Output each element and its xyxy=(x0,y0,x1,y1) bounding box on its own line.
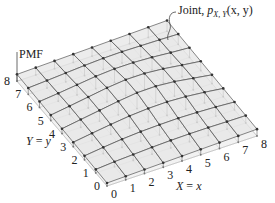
base-point xyxy=(144,173,146,175)
surface-point xyxy=(244,114,247,117)
base-point xyxy=(84,159,86,161)
base-point xyxy=(125,179,127,181)
x-tick-4: 4 xyxy=(186,163,192,175)
surface-point xyxy=(214,106,217,109)
annotation-args: (x, y) xyxy=(227,3,253,17)
surface-point xyxy=(72,141,75,144)
y-tick-4: 4 xyxy=(49,128,55,140)
annotation-prefix: Joint, xyxy=(178,3,207,17)
base-point xyxy=(95,172,97,174)
surface-point xyxy=(121,50,124,53)
surface-point xyxy=(166,101,169,104)
x-tick-5: 5 xyxy=(205,157,211,169)
surface-point xyxy=(199,60,202,63)
surface-point xyxy=(196,111,199,114)
surface-point xyxy=(128,115,131,118)
surface-point xyxy=(72,53,75,56)
surface-point xyxy=(57,92,60,95)
surface-point xyxy=(188,133,191,136)
surface-point xyxy=(184,95,187,98)
base-point xyxy=(39,107,41,109)
surface-point xyxy=(143,168,146,171)
surface-point xyxy=(169,51,172,54)
z-axis-label: PMF xyxy=(19,48,43,60)
surface-point xyxy=(102,146,105,149)
y-tick-7: 7 xyxy=(15,88,21,100)
surface-point xyxy=(158,39,161,42)
base-point xyxy=(256,135,258,137)
surface-point xyxy=(222,87,225,90)
surface-point xyxy=(49,114,52,117)
surface-point xyxy=(226,120,229,123)
surface-point xyxy=(192,77,195,80)
surface-point xyxy=(256,128,259,131)
surface-point xyxy=(181,155,184,158)
y-tick-1: 1 xyxy=(83,167,89,179)
surface-point xyxy=(124,78,127,81)
surface-point xyxy=(139,130,142,133)
surface-point xyxy=(147,26,150,29)
surface-point xyxy=(27,87,30,90)
surface-point xyxy=(68,105,71,108)
surface-point xyxy=(91,46,94,49)
surface-point xyxy=(53,60,56,63)
surface-point xyxy=(143,72,146,75)
surface-point xyxy=(199,148,202,151)
base-point xyxy=(181,160,183,162)
surface-point xyxy=(128,33,131,36)
surface-point xyxy=(124,175,127,178)
surface-point xyxy=(158,123,161,126)
surface-point xyxy=(181,64,184,67)
base-point xyxy=(50,120,52,122)
surface-point xyxy=(203,91,206,94)
surface-point xyxy=(121,138,124,141)
surface-point xyxy=(34,66,37,69)
surface-point xyxy=(136,92,139,95)
surface-point xyxy=(207,126,210,129)
surface-point xyxy=(61,127,64,130)
surface-point xyxy=(46,79,49,82)
annotation-subscript: X, Y xyxy=(213,10,226,19)
joint-pmf-plot xyxy=(0,0,275,203)
y-tick-3: 3 xyxy=(60,141,66,153)
surface-point xyxy=(162,68,165,71)
y-eq: = xyxy=(33,134,46,148)
base-point xyxy=(237,141,239,143)
surface-point xyxy=(94,168,97,171)
joint-pmf-annotation: Joint, pX, Y(x, y) xyxy=(178,4,253,19)
surface-point xyxy=(169,139,172,142)
surface-point xyxy=(139,45,142,48)
x-tick-3: 3 xyxy=(167,169,173,181)
surface-point xyxy=(162,162,165,165)
base-point xyxy=(106,185,108,187)
surface-point xyxy=(188,46,191,49)
base-point xyxy=(27,93,29,95)
surface-point xyxy=(76,84,79,87)
surface-point xyxy=(211,74,214,77)
x-tick-0: 0 xyxy=(111,188,117,200)
y-tick-5: 5 xyxy=(38,115,44,127)
x-tick-8: 8 xyxy=(261,138,267,150)
base-point xyxy=(72,146,74,148)
surface-point xyxy=(173,80,176,83)
pmf-surface xyxy=(16,19,259,184)
surface-point xyxy=(106,87,109,90)
surface-point xyxy=(117,100,120,103)
surface-point xyxy=(83,155,86,158)
surface-point xyxy=(233,101,236,104)
x-val: x xyxy=(196,179,201,193)
base-point xyxy=(162,166,164,168)
surface-point xyxy=(151,56,154,59)
y-axis-label: Y = y xyxy=(26,135,51,147)
surface-point xyxy=(151,146,154,149)
surface-point xyxy=(177,33,180,36)
x-tick-1: 1 xyxy=(130,182,136,194)
base-point xyxy=(219,148,221,150)
x-axis-label: X = x xyxy=(176,180,201,192)
x-tick-2: 2 xyxy=(149,176,155,188)
surface-point xyxy=(38,100,41,103)
surface-point xyxy=(64,72,67,75)
surface-point xyxy=(132,153,135,156)
surface-point xyxy=(237,135,240,138)
surface-point xyxy=(109,39,112,42)
